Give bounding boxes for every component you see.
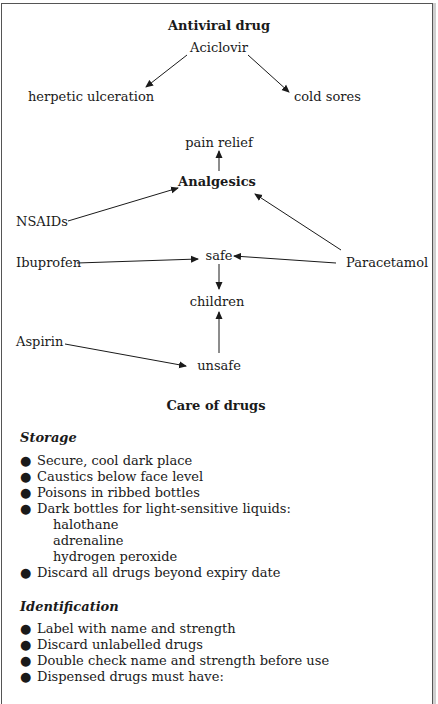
- unsafe-label: unsafe: [197, 358, 241, 374]
- safe-label: safe: [206, 248, 233, 264]
- list-item: ●Label with name and strength: [20, 621, 329, 637]
- sub-list-item: hydrogen peroxide: [20, 549, 291, 565]
- arrow-aciclovir-herpetic: [146, 55, 187, 87]
- aspirin-label: Aspirin: [16, 334, 63, 350]
- bullet-icon: ●: [20, 453, 31, 469]
- bullet-icon: ●: [20, 469, 31, 485]
- arrow-paracetamol-analgesics: [255, 194, 341, 250]
- arrow-aspirin-unsafe: [65, 344, 186, 366]
- cold-sores-label: cold sores: [294, 89, 361, 105]
- bullet-icon: ●: [20, 621, 31, 637]
- bullet-icon: ●: [20, 565, 31, 581]
- storage-heading: Storage: [20, 430, 77, 446]
- arrow-aciclovir-coldsores: [248, 55, 289, 92]
- bullet-icon: ●: [20, 485, 31, 501]
- list-item: ●Caustics below face level: [20, 469, 291, 485]
- herpetic-ulceration-label: herpetic ulceration: [28, 89, 154, 105]
- list-item: ●Dispensed drugs must have:: [20, 669, 329, 685]
- antiviral-title: Antiviral drug: [168, 18, 270, 34]
- bullet-icon: ●: [20, 669, 31, 685]
- children-label: children: [190, 294, 245, 310]
- arrow-paracetamol-safe: [234, 256, 336, 263]
- bullet-icon: ●: [20, 637, 31, 653]
- identification-list: ●Label with name and strength ●Discard u…: [20, 621, 329, 685]
- list-item: ●Poisons in ribbed bottles: [20, 485, 291, 501]
- list-item: ●Secure, cool dark place: [20, 453, 291, 469]
- care-of-drugs-title: Care of drugs: [166, 398, 265, 414]
- bullet-icon: ●: [20, 501, 31, 517]
- nsaids-label: NSAIDs: [16, 214, 68, 230]
- list-item: ●Double check name and strength before u…: [20, 653, 329, 669]
- paracetamol-label: Paracetamol: [346, 255, 428, 271]
- aciclovir-label: Aciclovir: [190, 40, 248, 56]
- storage-list: ●Secure, cool dark place ●Caustics below…: [20, 453, 291, 581]
- ibuprofen-label: Ibuprofen: [16, 255, 81, 271]
- list-item: ●Discard all drugs beyond expiry date: [20, 565, 291, 581]
- analgesics-title: Analgesics: [178, 174, 256, 190]
- list-item: ●Dark bottles for light-sensitive liquid…: [20, 501, 291, 517]
- pain-relief-label: pain relief: [185, 135, 252, 151]
- arrow-nsaids-analgesics: [68, 188, 178, 221]
- bullet-icon: ●: [20, 653, 31, 669]
- sub-list-item: halothane: [20, 517, 291, 533]
- list-item: ●Discard unlabelled drugs: [20, 637, 329, 653]
- identification-heading: Identification: [20, 599, 119, 615]
- arrow-ibuprofen-safe: [77, 259, 198, 263]
- sub-list-item: adrenaline: [20, 533, 291, 549]
